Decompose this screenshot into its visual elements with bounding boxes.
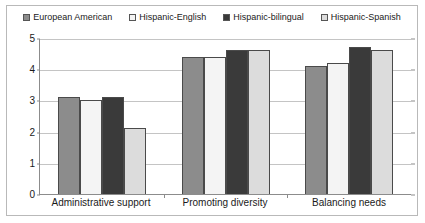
bar[interactable]	[248, 50, 270, 194]
light-gray-swatch	[321, 14, 328, 21]
bar-group	[164, 39, 288, 194]
bar[interactable]	[305, 66, 327, 194]
legend-label: Hispanic-bilingual	[233, 12, 304, 22]
right-axis-tick-mark	[411, 39, 415, 40]
bar[interactable]	[226, 50, 248, 194]
bar[interactable]	[58, 97, 80, 194]
plot-area: 012345	[39, 39, 411, 195]
y-axis-tick-label: 2	[29, 128, 35, 138]
legend-item-hispanic-bilingual: Hispanic-bilingual	[223, 12, 304, 22]
bar[interactable]	[80, 100, 102, 194]
legend-label: Hispanic-Spanish	[331, 12, 401, 22]
bar-group	[287, 39, 411, 194]
bar[interactable]	[124, 128, 146, 194]
y-axis-tick-mark	[37, 195, 40, 196]
legend-item-hispanic-spanish: Hispanic-Spanish	[321, 12, 401, 22]
bar[interactable]	[327, 63, 349, 194]
y-axis-tick-label: 4	[29, 65, 35, 75]
y-axis-tick-label: 1	[29, 159, 35, 169]
x-axis-tick-label: Balancing needs	[287, 197, 411, 209]
legend-item-hispanic-english: Hispanic-English	[129, 12, 206, 22]
bar-series-area	[40, 39, 411, 194]
gray-filled-swatch	[23, 14, 30, 21]
legend-label: Hispanic-English	[139, 12, 206, 22]
bar[interactable]	[182, 57, 204, 194]
bar[interactable]	[102, 97, 124, 194]
y-axis-tick-label: 5	[29, 34, 35, 44]
legend-label: European American	[33, 12, 112, 22]
y-axis-tick-label: 0	[29, 190, 35, 200]
white-empty-swatch	[129, 14, 136, 21]
black-filled-swatch	[223, 14, 230, 21]
bar[interactable]	[371, 50, 393, 194]
right-axis-tick-mark	[411, 132, 415, 133]
right-axis-tick-mark	[411, 70, 415, 71]
legend-item-european-american: European American	[23, 12, 112, 22]
bar[interactable]	[204, 57, 226, 194]
chart-legend: European American Hispanic-English Hispa…	[7, 12, 417, 22]
right-axis-tick-mark	[411, 163, 415, 164]
right-axis-tick-mark	[411, 101, 415, 102]
chart-container: European American Hispanic-English Hispa…	[6, 5, 418, 216]
x-axis-tick-label: Administrative support	[39, 197, 163, 209]
right-axis-tick-mark	[411, 195, 415, 196]
x-axis-tick-label: Promoting diversity	[163, 197, 287, 209]
bar[interactable]	[349, 47, 371, 194]
x-axis-labels: Administrative supportPromoting diversit…	[39, 197, 411, 209]
bar-group	[40, 39, 164, 194]
y-axis-tick-label: 3	[29, 96, 35, 106]
